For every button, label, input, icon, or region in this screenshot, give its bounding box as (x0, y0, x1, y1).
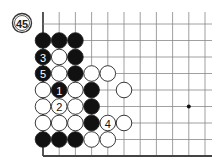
black-stone-icon (35, 33, 51, 49)
go-board-diagram: 35124 45 (0, 0, 224, 166)
star-point-icon (187, 105, 191, 109)
black-stone-icon (51, 132, 67, 148)
white-stone: 4 (100, 115, 116, 131)
white-stone-icon (68, 99, 84, 115)
black-stone (84, 115, 100, 131)
white-stone-icon (35, 99, 51, 115)
black-stone-icon (84, 82, 100, 98)
black-stone (35, 33, 51, 49)
black-stone-icon (68, 49, 84, 65)
move-number: 2 (56, 101, 62, 113)
white-stone-icon (35, 115, 51, 131)
white-stone (51, 66, 67, 82)
white-stone (51, 115, 67, 131)
white-stone-icon (68, 82, 84, 98)
white-stone (100, 66, 116, 82)
problem-number: 45 (16, 18, 28, 30)
problem-number-badge: 45 (13, 14, 32, 33)
white-stone-icon (84, 66, 100, 82)
move-number: 4 (105, 118, 111, 130)
black-stone (51, 132, 67, 148)
move-number: 1 (56, 85, 62, 97)
black-stone-icon (84, 99, 100, 115)
black-stone-icon (68, 66, 84, 82)
white-stone (84, 66, 100, 82)
white-stone-icon (100, 132, 116, 148)
black-stone-icon (35, 132, 51, 148)
white-stone (68, 115, 84, 131)
stones-layer: 35124 (35, 33, 132, 148)
black-stone-icon (68, 132, 84, 148)
star-points (187, 105, 191, 109)
move-number: 5 (40, 68, 46, 80)
black-stone-icon (84, 115, 100, 131)
white-stone: 2 (51, 99, 67, 115)
black-stone: 1 (51, 82, 67, 98)
white-stone (116, 82, 132, 98)
black-stone-icon (51, 33, 67, 49)
black-stone: 5 (35, 66, 51, 82)
white-stone (51, 49, 67, 65)
move-number: 3 (40, 52, 46, 64)
black-stone (51, 33, 67, 49)
black-stone (84, 82, 100, 98)
white-stone-icon (84, 132, 100, 148)
white-stone-icon (68, 115, 84, 131)
white-stone-icon (35, 82, 51, 98)
white-stone (68, 99, 84, 115)
white-stone (84, 132, 100, 148)
white-stone-icon (100, 66, 116, 82)
white-stone (116, 115, 132, 131)
black-stone (35, 132, 51, 148)
white-stone (68, 82, 84, 98)
black-stone-icon (68, 33, 84, 49)
white-stone-icon (116, 82, 132, 98)
white-stone (35, 82, 51, 98)
white-stone-icon (51, 66, 67, 82)
white-stone (35, 99, 51, 115)
black-stone (68, 66, 84, 82)
black-stone: 3 (35, 49, 51, 65)
black-stone (84, 99, 100, 115)
white-stone-icon (116, 115, 132, 131)
black-stone (68, 132, 84, 148)
white-stone (35, 115, 51, 131)
white-stone-icon (51, 49, 67, 65)
black-stone (68, 33, 84, 49)
white-stone (100, 132, 116, 148)
white-stone-icon (51, 115, 67, 131)
black-stone (68, 49, 84, 65)
